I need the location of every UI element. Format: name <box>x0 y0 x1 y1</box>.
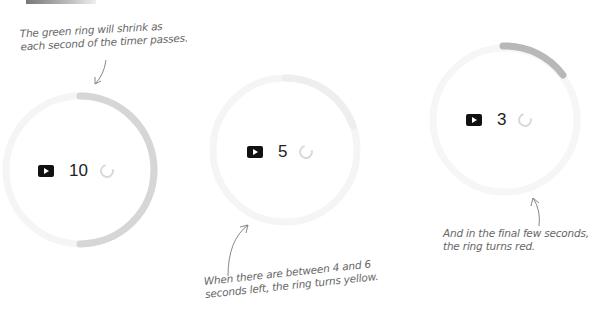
annotation-red: And in the final few seconds, the ring t… <box>443 227 589 253</box>
reset-icon[interactable] <box>516 110 535 129</box>
arrow-yellow <box>228 225 248 276</box>
play-icon[interactable] <box>466 114 482 126</box>
annotation-red-line-1: And in the final few seconds, <box>443 227 589 240</box>
timer-2: 5 <box>247 142 313 162</box>
timer-1: 10 <box>38 161 114 181</box>
play-icon[interactable] <box>38 165 54 177</box>
reset-icon[interactable] <box>97 161 116 180</box>
timer-3: 3 <box>466 110 532 130</box>
arrow-green <box>95 60 106 84</box>
reset-icon[interactable] <box>297 142 316 161</box>
ring-progress-2 <box>285 78 353 126</box>
timer-count: 3 <box>497 110 506 130</box>
annotation-red-line-2: the ring turns red. <box>443 240 589 253</box>
timer-count: 5 <box>278 142 287 162</box>
timer-count: 10 <box>69 161 88 181</box>
play-icon[interactable] <box>247 146 263 158</box>
